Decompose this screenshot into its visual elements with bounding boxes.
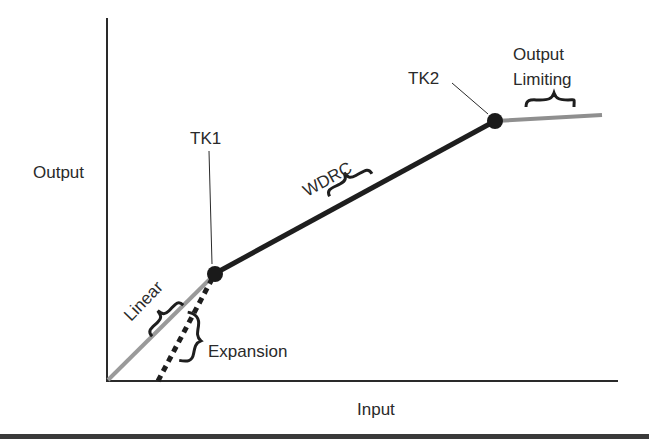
bottom-rule <box>0 434 649 439</box>
y-axis-label: Output <box>33 163 84 182</box>
wdrc-segment <box>214 121 495 274</box>
output-limiting-label-line2: Limiting <box>513 70 572 89</box>
tk1-leader-line <box>209 151 212 264</box>
x-axis-label: Input <box>357 400 395 419</box>
tk2-leader-line <box>452 83 488 114</box>
tk2-kneepoint-dot <box>487 113 503 129</box>
compression-diagram: Output Input TK1 TK2 Output Limiting WDR… <box>0 0 649 445</box>
output-limiting-segment <box>495 115 602 121</box>
tk1-kneepoint-dot <box>207 266 223 282</box>
tk2-label: TK2 <box>408 69 439 88</box>
expansion-segment <box>158 279 212 381</box>
output-limiting-brace-icon <box>526 93 574 107</box>
output-limiting-label-line1: Output <box>513 45 564 64</box>
tk1-label: TK1 <box>190 129 221 148</box>
expansion-label: Expansion <box>208 342 287 361</box>
